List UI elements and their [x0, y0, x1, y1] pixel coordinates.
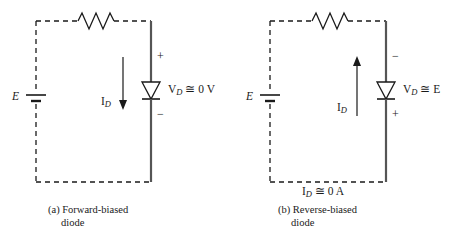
source-label-b: E: [246, 91, 253, 103]
circuit-a-schematic: [0, 0, 227, 236]
diode-voltage-b-value: ≅ E: [420, 83, 440, 95]
resistor-a: [78, 13, 114, 29]
caption-a-line2: diode: [48, 216, 128, 229]
polarity-minus-a: −: [157, 108, 164, 120]
caption-b: (b) Reverse-biaseddiode: [278, 203, 357, 229]
current-arrow-head-b: [353, 56, 361, 66]
current-label-a-sub: D: [105, 99, 111, 109]
polarity-plus-b: +: [392, 108, 399, 120]
diode-triangle-a: [142, 82, 160, 99]
bottom-note-b-value: ≅ 0 A: [315, 185, 344, 197]
resistor-b: [312, 13, 348, 29]
diode-voltage-label-a: VD≅ 0 V: [168, 84, 215, 97]
polarity-plus-a: +: [157, 50, 164, 62]
caption-b-line1: (b) Reverse-biased: [278, 204, 357, 215]
diode-voltage-b-sub: D: [411, 87, 417, 97]
diode-voltage-a-sub: D: [176, 87, 182, 97]
source-label-a: E: [12, 91, 19, 103]
bottom-note-b-sub: D: [306, 189, 312, 199]
current-label-b: ID: [337, 102, 347, 115]
current-arrow-head-a: [119, 100, 127, 110]
current-label-b-sub: D: [341, 105, 347, 115]
circuit-forward-biased: E ID VD≅ 0 V + − (a) Forward-biaseddiode: [0, 0, 227, 236]
figure-diode-bias-circuits: E ID VD≅ 0 V + − (a) Forward-biaseddiode: [0, 0, 454, 236]
bottom-note-b: ID≅ 0 A: [302, 186, 344, 199]
diode-triangle-b: [377, 82, 395, 99]
current-label-a: ID: [101, 96, 111, 109]
caption-b-line2: diode: [278, 216, 357, 229]
diode-voltage-label-b: VD≅ E: [403, 84, 440, 97]
caption-a: (a) Forward-biaseddiode: [48, 203, 128, 229]
diode-voltage-a-value: ≅ 0 V: [185, 83, 215, 95]
caption-a-line1: (a) Forward-biased: [48, 204, 128, 215]
polarity-minus-b: −: [392, 50, 399, 62]
circuit-b-schematic: [227, 0, 454, 236]
circuit-reverse-biased: E ID VD≅ E − + ID≅ 0 A (b) Reverse-biase…: [227, 0, 454, 236]
